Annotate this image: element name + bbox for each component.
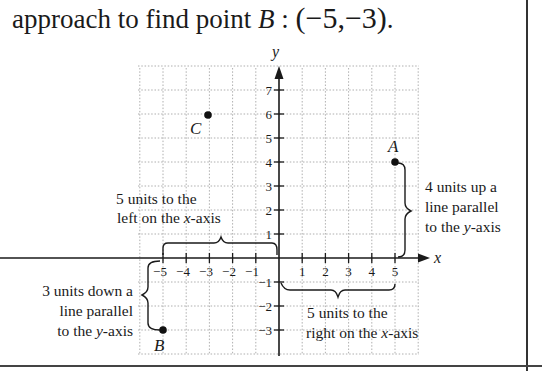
y-tick-label: −2	[258, 299, 272, 314]
y-tick-label: 2	[266, 203, 273, 218]
annotation-line: 5 units to the	[307, 304, 388, 321]
point-a: A	[387, 137, 399, 166]
y-tick-label: 6	[266, 107, 273, 122]
x-tick-label: 1	[299, 264, 306, 279]
point-c-label: C	[190, 119, 202, 138]
brace-right-x	[281, 283, 395, 297]
x-tick-label: 3	[345, 264, 352, 279]
x-tick-label: 5	[392, 264, 399, 279]
point-b: B	[154, 326, 167, 355]
x-tick-label: −2	[222, 264, 236, 279]
annotation-line: 4 units up a	[425, 178, 497, 195]
annotation-line: right on the x-axis	[306, 324, 418, 341]
y-tick-label: 7	[266, 83, 273, 98]
x-axis	[0, 254, 430, 263]
x-tick-label: −4	[176, 264, 190, 279]
x-tick-label: 4	[369, 264, 376, 279]
x-tick-label: −3	[199, 264, 213, 279]
y-tick-label: 5	[266, 131, 273, 146]
annotation-down-y: 3 units down a line parallel to the y-ax…	[42, 282, 133, 339]
y-tick-label: −3	[258, 323, 272, 338]
coordinate-plane: x y −5 −4 −3 −2 −1 1 2 3 4 5	[0, 0, 542, 371]
annotation-line: line parallel	[59, 302, 133, 319]
x-tick-label: −1	[245, 264, 259, 279]
y-tick-label: 1	[266, 227, 273, 242]
y-axis-label: y	[270, 43, 280, 61]
annotation-right-x: 5 units to the right on the x-axis	[306, 304, 418, 341]
y-tick-label: 4	[266, 155, 273, 170]
x-tick-label: 2	[322, 264, 329, 279]
brace-left-x	[163, 237, 277, 255]
annotation-line: to the y-axis	[425, 218, 501, 235]
point-b-label: B	[154, 336, 165, 355]
annotation-left-x: 5 units to the left on the x-axis	[116, 190, 221, 226]
x-tick-label: −5	[153, 264, 167, 279]
x-axis-label: x	[433, 249, 441, 266]
point-c: C	[190, 111, 212, 138]
annotation-line: 5 units to the	[116, 190, 197, 207]
annotation-line: left on the x-axis	[117, 209, 221, 226]
y-axis	[275, 66, 284, 356]
y-tick-label: 3	[266, 179, 273, 194]
point-a-label: A	[387, 137, 399, 156]
annotation-line: line parallel	[425, 198, 499, 215]
annotation-line: 3 units down a	[42, 282, 133, 299]
x-tick-labels: −5 −4 −3 −2 −1 1 2 3 4 5	[153, 264, 398, 279]
annotation-up-y: 4 units up a line parallel to the y-axis	[425, 178, 501, 235]
y-tick-label: −1	[258, 275, 272, 290]
annotation-line: to the y-axis	[57, 322, 133, 339]
